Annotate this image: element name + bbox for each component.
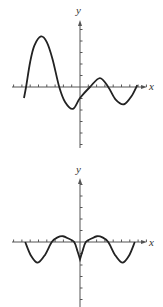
y-axis-label: y xyxy=(75,4,81,16)
curve xyxy=(24,36,137,109)
graph-top: x y xyxy=(0,0,163,155)
graph-bottom: x y xyxy=(0,155,163,307)
graph-bottom-svg: x y xyxy=(0,155,163,307)
x-axis-label: x xyxy=(148,236,154,248)
graph-top-svg: x y xyxy=(0,0,163,155)
x-axis-label: x xyxy=(148,80,154,92)
y-axis-label: y xyxy=(75,163,81,175)
y-axis xyxy=(78,20,82,148)
